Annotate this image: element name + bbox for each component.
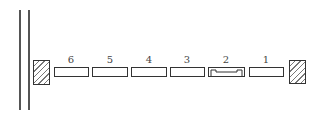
block-2-label: 2	[208, 55, 244, 65]
block-1	[249, 67, 284, 77]
block-1-label: 1	[248, 55, 284, 65]
